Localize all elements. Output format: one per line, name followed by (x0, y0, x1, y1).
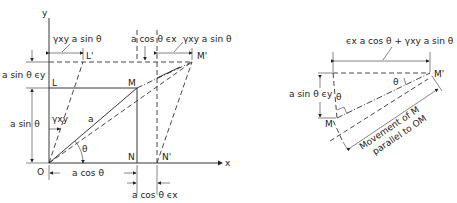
label-radius-a: a (88, 114, 94, 124)
label-shear-top: γxy a sin θ (53, 34, 102, 44)
label-angle-upper: θ (393, 77, 399, 87)
label-bottom-base: a cos θ (72, 168, 104, 178)
right-diagram: ϵx a cos θ + γxy a sin θ a sin θ ϵy θ θ … (289, 36, 454, 157)
label-bottom-strain: a cos θ ϵx (132, 190, 178, 200)
origin-label: O (37, 167, 44, 177)
right-angle-mark (404, 78, 406, 85)
point-M: M (325, 119, 333, 129)
point-L: L (52, 78, 57, 88)
label-shear-top-right: γxy a sin θ (183, 34, 232, 44)
label-left-strain: a sin θ ϵy (289, 89, 333, 99)
point-M: M (128, 78, 136, 88)
point-L-prime: L' (86, 51, 94, 61)
label-top-total: ϵx a cos θ + γxy a sin θ (346, 36, 454, 46)
label-theta: θ (82, 144, 88, 154)
label-left-lower: a sin θ (10, 119, 40, 129)
leader-line (62, 44, 70, 52)
point-N-prime: N' (162, 152, 171, 162)
strain-geometry-diagram: y x O L L' M M' N N' γxy a sin θ (0, 0, 457, 203)
line-OM (49, 88, 137, 163)
left-diagram: y x O L L' M M' N N' γxy a sin θ (2, 8, 232, 200)
y-axis-label: y (42, 8, 48, 18)
label-gamma-xy: γxy (52, 114, 69, 124)
label-top-middle: a cos θ ϵx (131, 34, 177, 44)
line-OM-prime (49, 62, 192, 163)
leader-line (383, 47, 392, 60)
x-axis-label: x (225, 158, 231, 168)
label-left-upper: a sin θ ϵy (2, 70, 46, 80)
point-N: N (128, 152, 135, 162)
point-M-prime: M' (434, 69, 444, 79)
right-angle-mark (337, 107, 344, 110)
line-N-prime-M-prime (157, 62, 192, 163)
right-angle-mark (344, 107, 347, 114)
line-M-M-prime (137, 62, 192, 88)
point-M-prime: M' (197, 51, 207, 61)
label-angle-lower: θ (336, 92, 342, 102)
dim-extension (343, 142, 348, 150)
